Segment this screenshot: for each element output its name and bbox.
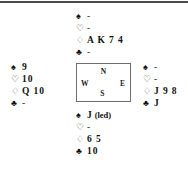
north-diamond-cards: A K 7 4	[87, 34, 124, 46]
spade-icon: ♠	[11, 61, 20, 73]
east-club-cards: J	[154, 97, 160, 109]
spade-icon: ♠	[76, 10, 85, 22]
hand-north: ♠ - ♡ - ♢ A K 7 4 ♣ -	[76, 10, 124, 58]
compass-label-south: S	[100, 89, 104, 98]
compass-label-west: W	[81, 78, 89, 87]
hand-south: ♠ J (led) ♡ - ♢ 6 5 ♣ 10	[76, 109, 111, 157]
south-spade-row: ♠ J (led)	[76, 109, 111, 121]
compass-label-north: N	[101, 67, 106, 76]
diamond-icon: ♢	[11, 85, 20, 97]
compass-box: N W E S	[76, 63, 131, 102]
east-spade-cards: -	[154, 61, 157, 73]
south-club-row: ♣ 10	[76, 145, 111, 157]
diamond-icon: ♢	[76, 133, 85, 145]
east-diamond-row: ♢ J 9 8	[143, 85, 178, 97]
north-heart-cards: -	[87, 22, 90, 34]
diamond-icon: ♢	[143, 85, 152, 97]
south-heart-cards: -	[87, 121, 90, 133]
south-diamond-cards: 6 5	[87, 133, 102, 145]
club-icon: ♣	[143, 97, 152, 109]
east-heart-cards: -	[154, 73, 157, 85]
west-diamond-cards: Q 10	[22, 85, 45, 97]
spade-icon: ♠	[143, 61, 152, 73]
north-diamond-row: ♢ A K 7 4	[76, 34, 124, 46]
hand-west: ♠ 9 ♡ 10 ♢ Q 10 ♣ -	[11, 61, 45, 109]
north-spade-cards: -	[87, 10, 90, 22]
east-spade-row: ♠ -	[143, 61, 178, 73]
bridge-deal-diagram: ♠ - ♡ - ♢ A K 7 4 ♣ - ♠ 9 ♡ 10 ♢ Q 10	[0, 0, 188, 170]
north-heart-row: ♡ -	[76, 22, 124, 34]
west-diamond-row: ♢ Q 10	[11, 85, 45, 97]
south-spade-cards: J	[87, 109, 93, 121]
west-spade-row: ♠ 9	[11, 61, 45, 73]
spade-icon: ♠	[76, 109, 85, 121]
club-icon: ♣	[11, 97, 20, 109]
north-club-cards: -	[87, 46, 90, 58]
west-spade-cards: 9	[22, 61, 28, 73]
club-icon: ♣	[76, 145, 85, 157]
south-club-cards: 10	[87, 145, 98, 157]
club-icon: ♣	[76, 46, 85, 58]
east-club-row: ♣ J	[143, 97, 178, 109]
south-spade-lead-note: (led)	[95, 109, 112, 121]
hand-east: ♠ - ♡ - ♢ J 9 8 ♣ J	[143, 61, 178, 109]
west-heart-row: ♡ 10	[11, 73, 45, 85]
heart-icon: ♡	[11, 73, 20, 85]
top-divider-rule	[0, 1, 188, 3]
heart-icon: ♡	[143, 73, 152, 85]
east-heart-row: ♡ -	[143, 73, 178, 85]
south-heart-row: ♡ -	[76, 121, 111, 133]
east-diamond-cards: J 9 8	[154, 85, 178, 97]
west-club-cards: -	[22, 97, 25, 109]
heart-icon: ♡	[76, 22, 85, 34]
north-club-row: ♣ -	[76, 46, 124, 58]
south-diamond-row: ♢ 6 5	[76, 133, 111, 145]
heart-icon: ♡	[76, 121, 85, 133]
west-heart-cards: 10	[22, 73, 33, 85]
west-club-row: ♣ -	[11, 97, 45, 109]
diamond-icon: ♢	[76, 34, 85, 46]
north-spade-row: ♠ -	[76, 10, 124, 22]
compass-label-east: E	[120, 78, 125, 87]
